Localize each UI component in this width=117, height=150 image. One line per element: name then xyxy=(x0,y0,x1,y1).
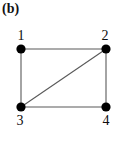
graph-node-1 xyxy=(16,44,25,53)
node-label-1: 1 xyxy=(18,29,25,43)
graph-node-3 xyxy=(16,102,25,111)
figure-panel-b: (b) 1234 xyxy=(0,0,117,150)
node-label-3: 3 xyxy=(17,114,24,128)
node-label-2: 2 xyxy=(102,29,109,43)
edge-layer xyxy=(21,49,106,107)
graph-node-4 xyxy=(101,102,110,111)
node-label-4: 4 xyxy=(103,114,110,128)
graph-node-2 xyxy=(101,44,110,53)
edge-3-2 xyxy=(21,49,106,107)
